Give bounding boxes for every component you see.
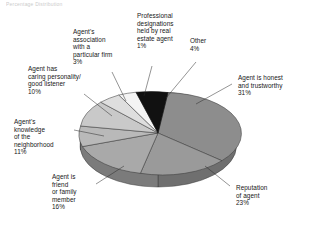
pie-label-reputation: Reputation of agent 23% bbox=[236, 184, 290, 207]
pie-label-caring-personality: Agent has caring personality/ good liste… bbox=[28, 65, 94, 95]
chart-canvas: Percentage Distribution bbox=[0, 0, 320, 234]
pie-top-face bbox=[79, 92, 242, 175]
pie-label-agent-association: Agent's association with a particular fi… bbox=[73, 28, 123, 66]
pie-label-honest-trustworthy: Agent is honest and trustworthy 31% bbox=[238, 74, 300, 97]
leader-line-other bbox=[166, 62, 196, 98]
leader-line-honest bbox=[196, 84, 232, 104]
pie-label-other: Other 4% bbox=[190, 37, 216, 52]
pie-label-friend-family: Agent is friend or family member 16% bbox=[52, 173, 98, 211]
pie-label-neighborhood-knowledge: Agent's knowledge of the neighborhood 11… bbox=[14, 118, 70, 156]
pie-label-professional-designations: Professional designations held by real e… bbox=[137, 12, 181, 50]
